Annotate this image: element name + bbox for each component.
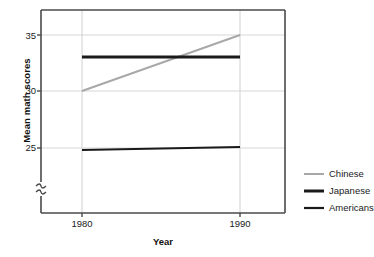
legend-label-americans: Americans	[329, 202, 374, 213]
legend-label-japanese: Japanese	[329, 185, 370, 196]
series-line-americans	[82, 147, 240, 150]
legend-item-americans[interactable]: Americans	[304, 199, 372, 216]
legend-swatch-americans-icon	[304, 204, 324, 212]
legend-label-chinese: Chinese	[329, 168, 364, 179]
legend-swatch-chinese-icon	[304, 170, 324, 178]
legend-item-chinese[interactable]: Chinese	[304, 165, 372, 182]
legend-item-japanese[interactable]: Japanese	[304, 182, 372, 199]
y-axis-break-icon-2	[36, 190, 46, 194]
legend-swatch-japanese-icon	[304, 187, 324, 195]
series-line-chinese	[82, 35, 240, 91]
chart-legend: Chinese Japanese Americans	[304, 165, 372, 216]
y-axis-break-icon	[36, 184, 46, 188]
